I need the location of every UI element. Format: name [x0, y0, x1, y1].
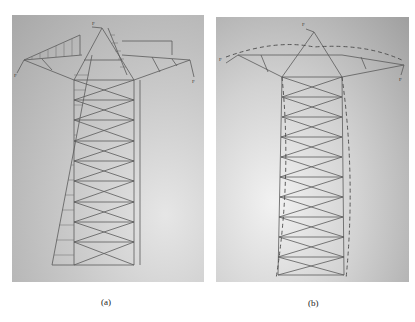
label-b-load-top: F [302, 22, 305, 27]
label-a-load-right: F [192, 79, 195, 84]
figure-panel-a: F F F [12, 15, 204, 282]
caption-a: (a) [101, 297, 111, 307]
tower-load-diagram: F F F [12, 15, 204, 282]
label-b-load-left: F [219, 57, 222, 62]
tower-deformation-diagram: F F F [216, 17, 409, 282]
caption-b: (b) [308, 298, 319, 308]
label-a-load-left: F [14, 73, 17, 78]
label-a-load-top: F [92, 21, 95, 26]
figure-panel-b: F F F [216, 17, 409, 282]
label-b-load-right: F [399, 77, 402, 82]
